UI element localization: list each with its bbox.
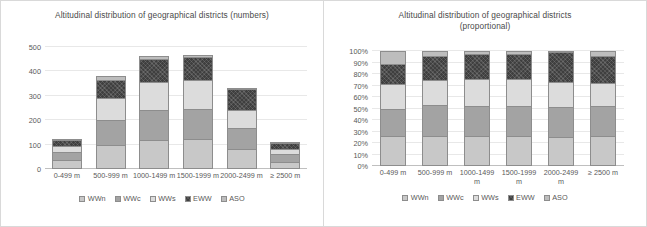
bar-segment-eww[interactable] [464, 54, 490, 78]
bar-segment-wwc[interactable] [506, 106, 532, 136]
bar-segment-wws[interactable] [139, 82, 169, 110]
y-axis-tick-label: 10% [353, 150, 368, 159]
bar-segment-wwn[interactable] [139, 140, 169, 170]
bar-segment-eww[interactable] [590, 56, 616, 84]
bar-segment-wwn[interactable] [548, 137, 574, 166]
chart-title-line1: Altitudinal distribution of geographical… [55, 10, 269, 20]
bar-segment-wwc[interactable] [380, 109, 406, 137]
bar-segment-wws[interactable] [422, 80, 448, 105]
legend-swatch-aso [544, 195, 550, 201]
y-axis-tick-label: 0% [357, 162, 368, 171]
bar-segment-wwn[interactable] [52, 160, 82, 169]
x-axis-label: ≥ 2500 m [263, 171, 307, 180]
bar-segment-wws[interactable] [96, 98, 126, 119]
stacked-bar[interactable] [590, 51, 616, 166]
bar-slot [132, 47, 176, 169]
stacked-bar[interactable] [506, 51, 532, 166]
y-axis-tick-label: 200 [29, 116, 41, 125]
legend-swatch-aso [221, 196, 227, 202]
legend-item-aso[interactable]: ASO [221, 194, 245, 203]
bar-segment-wwc[interactable] [464, 106, 490, 136]
bar-group-numbers [45, 47, 307, 169]
x-axis-label: 1500-1999 m [176, 171, 220, 180]
bar-segment-wwc[interactable] [139, 110, 169, 140]
legend-item-eww[interactable]: EWW [508, 193, 535, 202]
bar-segment-eww[interactable] [422, 56, 448, 80]
stacked-bar[interactable] [183, 55, 213, 169]
bar-segment-wwn[interactable] [590, 136, 616, 166]
bar-segment-wwn[interactable] [422, 136, 448, 166]
legend-label: WWn [88, 194, 106, 203]
stacked-bar[interactable] [464, 51, 490, 166]
bar-segment-wwc[interactable] [590, 106, 616, 136]
bar-segment-wwn[interactable] [96, 145, 126, 169]
plot-area-proportional: 0%10%20%30%40%50%60%70%80%90%100% [372, 51, 624, 166]
bar-segment-wws[interactable] [183, 80, 213, 109]
legend-label: WWc [446, 193, 463, 202]
stacked-bar[interactable] [422, 51, 448, 166]
stacked-bar[interactable] [52, 139, 82, 169]
x-axis-label: 2000-2499 m [540, 168, 582, 186]
stacked-bar[interactable] [270, 142, 300, 169]
legend-item-wws[interactable]: WWs [150, 194, 176, 203]
legend-swatch-wws [150, 196, 156, 202]
legend-swatch-eww [185, 196, 191, 202]
bar-segment-wws[interactable] [590, 83, 616, 106]
bar-segment-wws[interactable] [464, 79, 490, 107]
bar-segment-eww[interactable] [139, 59, 169, 82]
legend-item-wwc[interactable]: WWc [438, 193, 464, 202]
legend-swatch-eww [508, 195, 514, 201]
legend-swatch-wwc [438, 195, 444, 201]
legend-item-wwn[interactable]: WWn [79, 194, 105, 203]
bar-slot [540, 51, 582, 166]
chart-panel-proportional: Altitudinal distribution of geographical… [324, 0, 647, 227]
bar-segment-wwn[interactable] [506, 136, 532, 166]
bar-slot [176, 47, 220, 169]
legend-item-wws[interactable]: WWs [473, 193, 499, 202]
stacked-bar[interactable] [96, 76, 126, 169]
bar-segment-wwc[interactable] [422, 105, 448, 136]
stacked-bar[interactable] [227, 88, 257, 169]
legend-item-wwc[interactable]: WWc [115, 194, 141, 203]
bar-segment-eww[interactable] [506, 54, 532, 78]
legend-item-aso[interactable]: ASO [544, 193, 568, 202]
chart-title-numbers: Altitudinal distribution of geographical… [1, 10, 323, 21]
bar-segment-aso[interactable] [380, 51, 406, 64]
legend-label: WWs [481, 193, 498, 202]
stacked-bar[interactable] [548, 51, 574, 166]
bar-segment-wws[interactable] [52, 146, 82, 153]
bar-segment-wwn[interactable] [270, 162, 300, 169]
bar-group-proportional [372, 51, 624, 166]
bar-segment-eww[interactable] [183, 57, 213, 80]
y-axis-tick-label: 100% [349, 47, 368, 56]
bar-segment-wwc[interactable] [270, 154, 300, 161]
stacked-bar[interactable] [139, 56, 169, 169]
x-axis-label: ≥ 2500 m [582, 168, 624, 186]
bar-segment-wwc[interactable] [227, 128, 257, 149]
bar-segment-wwn[interactable] [380, 136, 406, 166]
bar-segment-wwc[interactable] [52, 152, 82, 160]
bar-segment-wws[interactable] [506, 79, 532, 107]
legend-label: WWs [158, 194, 175, 203]
bar-segment-wwn[interactable] [464, 136, 490, 166]
bar-segment-wwc[interactable] [548, 107, 574, 137]
legend-item-eww[interactable]: EWW [185, 194, 212, 203]
bar-slot [89, 47, 133, 169]
bar-slot [263, 47, 307, 169]
bar-segment-eww[interactable] [548, 52, 574, 82]
stacked-bar[interactable] [380, 51, 406, 166]
bar-segment-wwn[interactable] [183, 139, 213, 169]
bar-slot [220, 47, 264, 169]
bar-segment-wws[interactable] [227, 110, 257, 128]
bar-segment-eww[interactable] [227, 89, 257, 110]
bar-segment-wws[interactable] [380, 84, 406, 108]
bar-segment-eww[interactable] [380, 64, 406, 85]
bar-segment-wwc[interactable] [183, 109, 213, 139]
bar-segment-wwc[interactable] [96, 120, 126, 145]
legend-swatch-wwc [115, 196, 121, 202]
legend-item-wwn[interactable]: WWn [402, 193, 428, 202]
bar-segment-eww[interactable] [96, 80, 126, 99]
bar-segment-wws[interactable] [548, 82, 574, 107]
y-axis-tick-label: 30% [353, 127, 368, 136]
bar-segment-wwn[interactable] [227, 149, 257, 169]
